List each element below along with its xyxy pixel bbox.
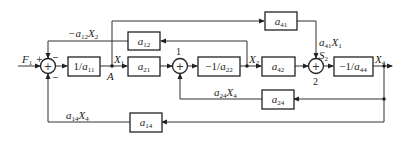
sum0-symbol: + — [44, 61, 52, 72]
signal-x2: X2 — [248, 53, 260, 67]
signal-a41-x1: a41X1 — [319, 36, 342, 50]
signal-x4: X4 — [374, 53, 386, 67]
block-diagram: + + + + − − 1 2 1/a11 a21 a12 −1/a22 a42… — [0, 0, 406, 142]
signal-a24-x4: a24X4 — [214, 86, 237, 100]
line-a14-to-sum0 — [48, 74, 130, 122]
sum0-sign-bottom: − — [52, 73, 59, 82]
line-a41-to-sum2 — [297, 21, 316, 58]
signal-x1: X1 — [113, 53, 125, 67]
sum2-symbol: + — [312, 61, 320, 72]
sum0-sign-left: + — [36, 55, 43, 64]
node-a-label: A — [106, 70, 114, 82]
signal-s2: S2 — [319, 49, 329, 63]
signal-neg-a12-x2: −a12X2 — [68, 27, 99, 41]
sum0-sign-top: − — [52, 53, 59, 62]
sum1-label: 1 — [176, 46, 181, 57]
sum2-label: 2 — [313, 76, 318, 87]
signal-f1: F1 — [21, 53, 33, 67]
sum1-symbol: + — [176, 61, 184, 72]
signal-a14-x4: a14X4 — [66, 109, 89, 123]
junction-x4-lower — [382, 97, 386, 101]
